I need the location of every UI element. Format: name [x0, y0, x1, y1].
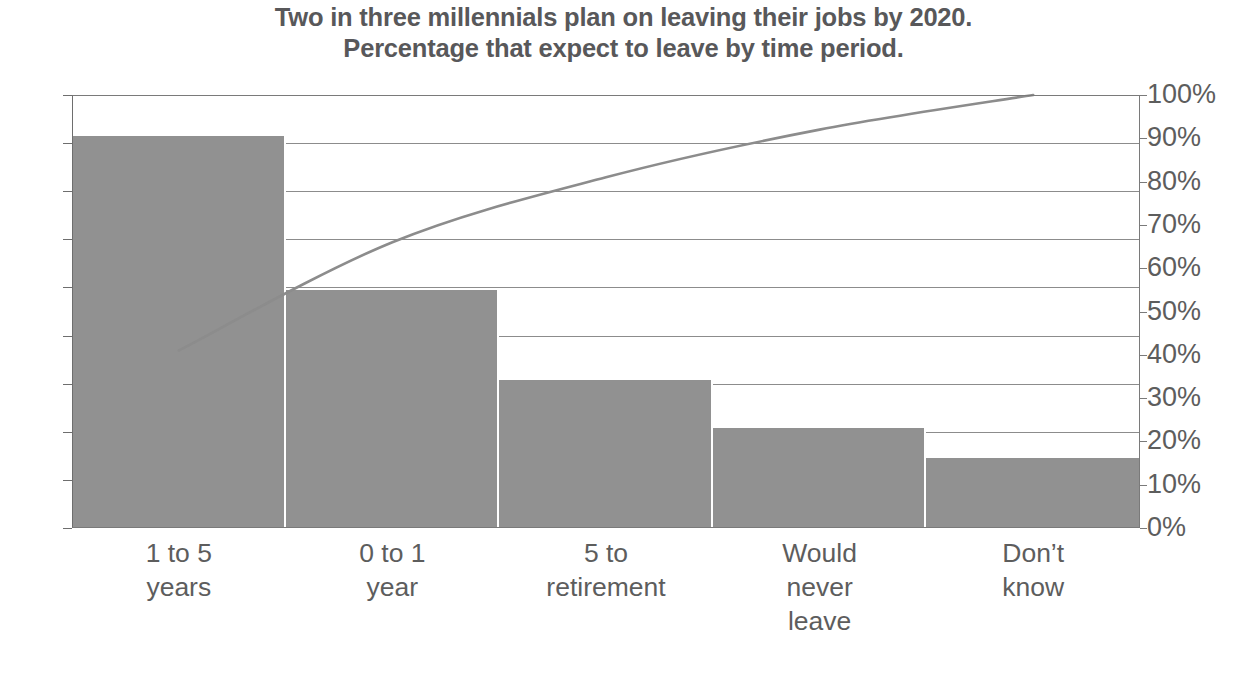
right-axis-label: 50% [1147, 298, 1201, 325]
pareto-chart: Two in three millennials plan on leaving… [0, 0, 1247, 674]
category-label: Would never leave [713, 536, 927, 638]
category-axis-labels: 1 to 5 years0 to 1 year5 to retirementWo… [72, 536, 1140, 666]
right-axis-label: 90% [1147, 124, 1201, 151]
right-axis-labels: 0%10%20%30%40%50%60%70%80%90%100% [0, 95, 1247, 528]
right-axis-label: 100% [1147, 81, 1216, 108]
right-axis-tick [1140, 528, 1147, 529]
right-axis-label: 40% [1147, 341, 1201, 368]
right-axis-label: 20% [1147, 427, 1201, 454]
right-axis-label: 70% [1147, 211, 1201, 238]
right-axis-label: 80% [1147, 168, 1201, 195]
right-axis-label: 60% [1147, 254, 1201, 281]
category-label: 0 to 1 year [286, 536, 500, 604]
right-axis-label: 30% [1147, 384, 1201, 411]
category-label: Don’t know [926, 536, 1140, 604]
category-label: 5 to retirement [499, 536, 713, 604]
chart-title: Two in three millennials plan on leaving… [0, 2, 1247, 64]
left-axis-tick [63, 528, 72, 529]
right-axis-label: 10% [1147, 471, 1201, 498]
right-axis-label: 0% [1147, 514, 1186, 541]
category-label: 1 to 5 years [72, 536, 286, 604]
